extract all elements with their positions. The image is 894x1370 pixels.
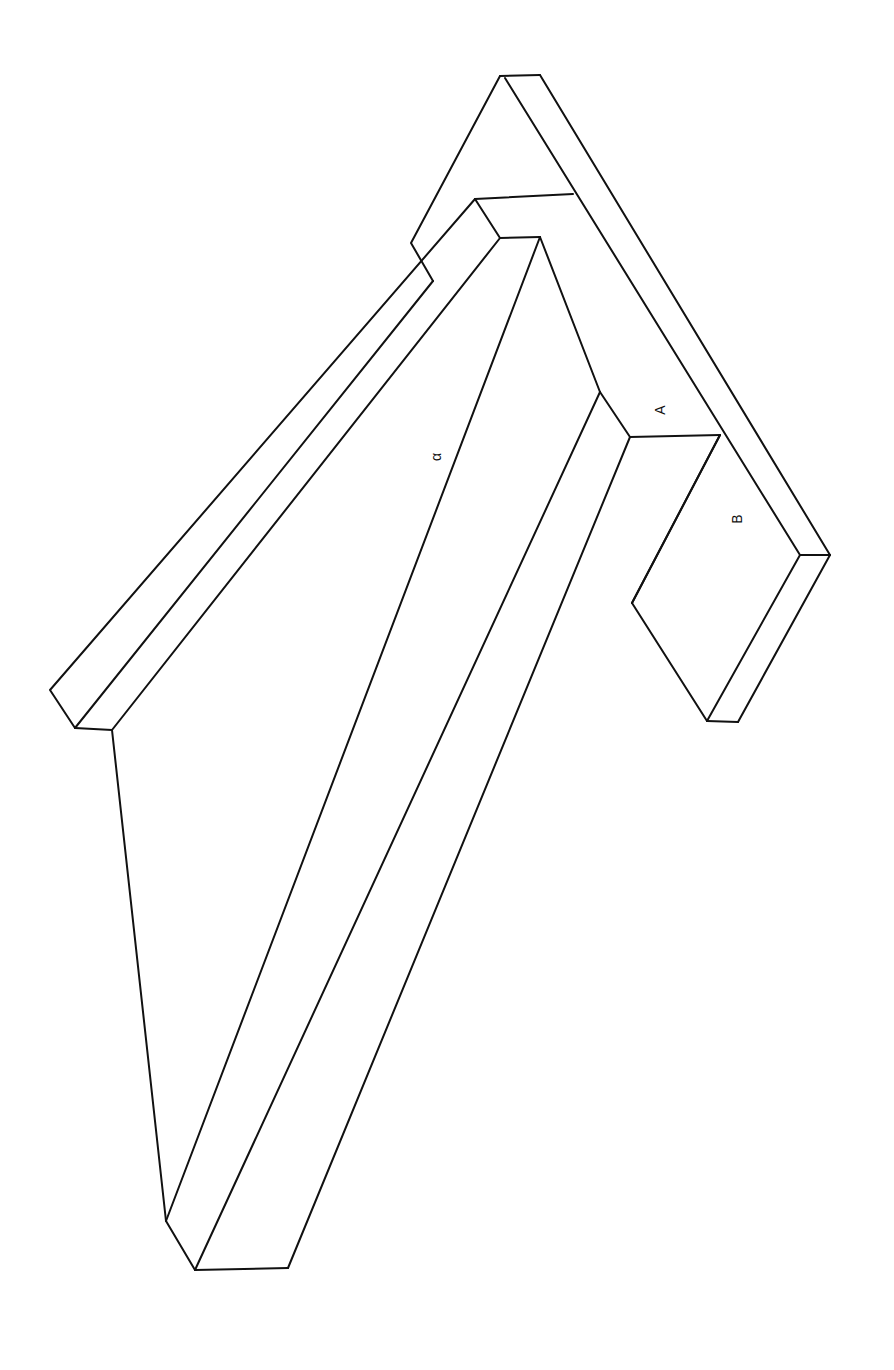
flange-front-right — [738, 555, 830, 722]
label-A: A — [652, 405, 668, 415]
inner-rail — [195, 392, 600, 1270]
front-rail — [288, 437, 630, 1268]
label-B: B — [729, 514, 745, 523]
mid-rail — [166, 237, 540, 1221]
block-B-diag — [632, 603, 707, 721]
web-upper-left — [475, 199, 500, 238]
top-flange-right-outer — [540, 75, 830, 555]
left-rail-2 — [112, 238, 500, 730]
isometric-diagram: ABα — [0, 0, 894, 1370]
flange-step — [475, 194, 573, 199]
web-upper-slope — [540, 237, 630, 437]
left-rail-foot — [75, 728, 112, 730]
right-rail — [632, 435, 720, 603]
bottom-base — [195, 1268, 288, 1270]
left-rail-outer — [50, 199, 475, 728]
flange-front-base — [707, 721, 738, 722]
bottom-slope — [112, 730, 195, 1270]
diagram-edges — [50, 75, 830, 1270]
top-flange-left-slope — [411, 76, 500, 281]
label-alpha: α — [428, 453, 444, 461]
top-flange-right-inner — [505, 78, 800, 555]
web-upper-top — [500, 237, 540, 238]
top-flange-top-edge — [500, 75, 540, 76]
flange-front-left — [707, 555, 800, 721]
ledge-A — [630, 435, 720, 437]
